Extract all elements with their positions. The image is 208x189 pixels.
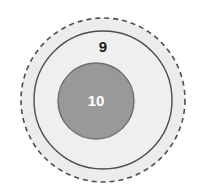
inner-circle-label: 10 — [88, 92, 105, 109]
diagram-svg-canvas: 9 10 — [0, 0, 208, 189]
concentric-circles-diagram: 9 10 — [0, 0, 208, 189]
outer-ring-label: 9 — [99, 38, 107, 55]
